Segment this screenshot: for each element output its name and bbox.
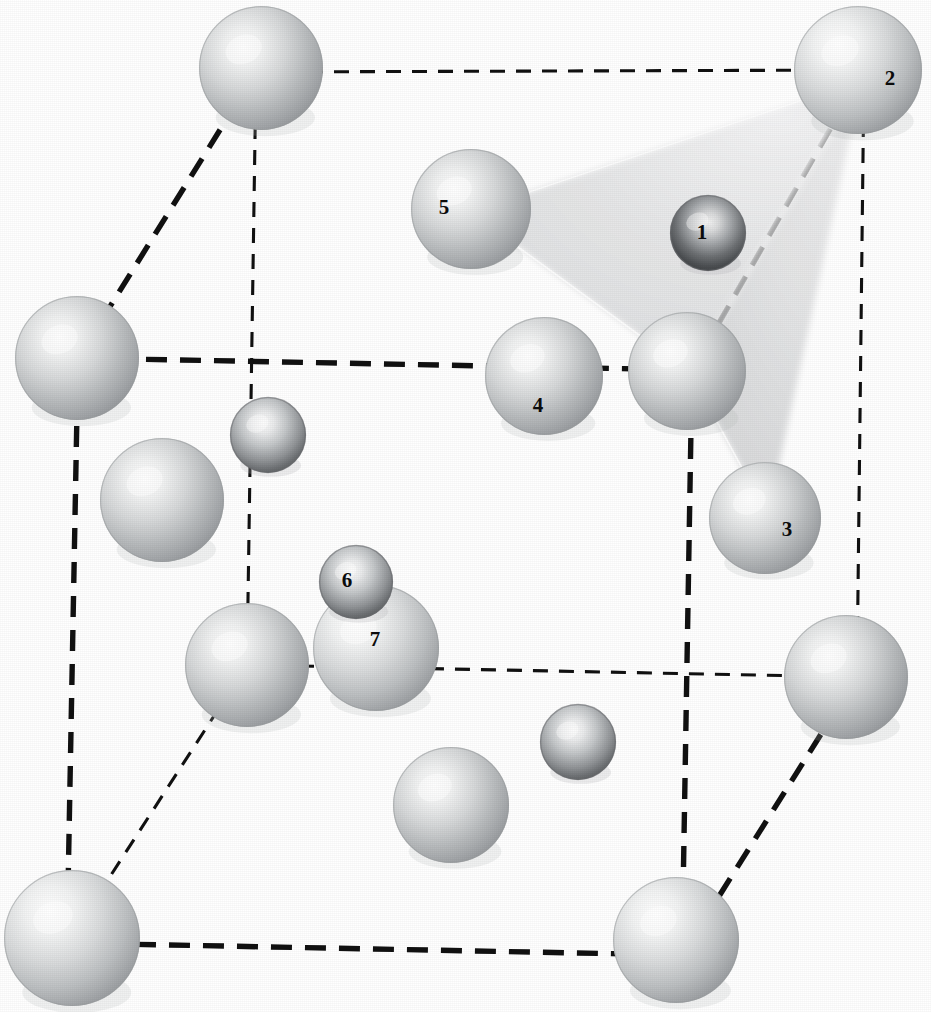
atom-number-label-1: 1 xyxy=(697,222,708,243)
atom-number-label-6: 6 xyxy=(342,570,353,591)
atom-label-layer: 1234567 xyxy=(0,0,931,1012)
atom-number-label-7: 7 xyxy=(370,629,381,650)
atom-number-label-5: 5 xyxy=(439,197,450,218)
atom-number-label-2: 2 xyxy=(885,68,896,89)
crystal-structure-figure: 1234567 xyxy=(0,0,931,1012)
atom-number-label-4: 4 xyxy=(533,395,544,416)
atom-number-label-3: 3 xyxy=(782,519,793,540)
